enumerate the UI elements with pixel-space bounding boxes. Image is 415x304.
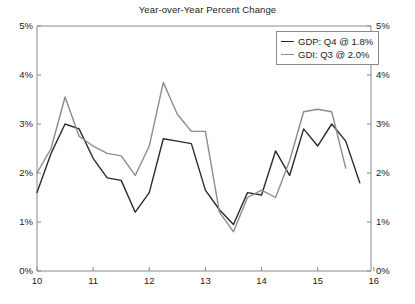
x-tick-label: 15	[306, 275, 330, 286]
x-tick-label: 14	[250, 275, 274, 286]
y-tick-label: 2%	[376, 167, 406, 178]
legend-swatch-gdi	[281, 54, 294, 55]
series-line-gdp	[37, 124, 360, 224]
y-tick-label: 1%	[3, 216, 33, 227]
chart-legend: GDP: Q4 @ 1.8% GDI: Q3 @ 2.0%	[276, 31, 379, 65]
y-tick-label: 1%	[376, 216, 406, 227]
y-tick-label: 3%	[3, 118, 33, 129]
y-tick-label: 4%	[376, 69, 406, 80]
legend-label-gdi: GDI: Q3 @ 2.0%	[298, 49, 369, 60]
y-tick-label: 3%	[376, 118, 406, 129]
chart-container: Year-over-Year Percent Change 0%1%2%3%4%…	[0, 0, 415, 304]
x-tick-label: 12	[137, 275, 161, 286]
legend-item-gdi: GDI: Q3 @ 2.0%	[281, 48, 373, 61]
x-tick-label: 13	[193, 275, 217, 286]
series-line-gdi	[37, 82, 346, 231]
y-tick-label: 2%	[3, 167, 33, 178]
y-tick-label: 4%	[3, 69, 33, 80]
y-tick-label: 5%	[376, 20, 406, 31]
legend-item-gdp: GDP: Q4 @ 1.8%	[281, 35, 373, 48]
x-tick-label: 16	[362, 275, 386, 286]
y-tick-label: 5%	[3, 20, 33, 31]
data-series	[37, 82, 360, 231]
x-tick-label: 11	[81, 275, 105, 286]
legend-label-gdp: GDP: Q4 @ 1.8%	[298, 36, 373, 47]
x-tick-label: 10	[25, 275, 49, 286]
legend-swatch-gdp	[281, 41, 294, 42]
